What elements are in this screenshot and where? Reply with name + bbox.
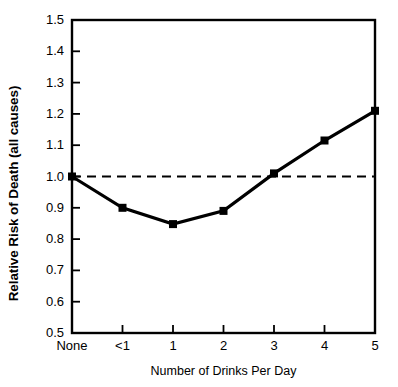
y-tick-label-0-9: 0.9 <box>4 201 64 214</box>
y-tick-label-1-2: 1.2 <box>4 107 64 120</box>
y-tick-label-0-6: 0.6 <box>4 295 64 308</box>
data-point-4 <box>321 137 329 145</box>
y-tick-label-0-8: 0.8 <box>4 232 64 245</box>
y-tick-label-0-7: 0.7 <box>4 263 64 276</box>
data-point-5 <box>371 107 379 115</box>
y-tick-label-1-1: 1.1 <box>4 138 64 151</box>
chart-figure: Relative Risk of Death (all causes) <box>0 0 398 387</box>
y-tick-label-1-3: 1.3 <box>4 76 64 89</box>
y-tick-label-1-4: 1.4 <box>4 44 64 57</box>
data-point-none <box>68 173 76 181</box>
data-point-2 <box>220 207 228 215</box>
data-point-1 <box>169 220 177 228</box>
x-tick-label-5: 5 <box>340 339 398 353</box>
y-tick-label-0-5: 0.5 <box>4 326 64 339</box>
y-tick-label-1-0: 1.0 <box>4 170 64 183</box>
data-point-3 <box>270 169 278 177</box>
data-point-lt1 <box>119 204 127 212</box>
x-axis-title: Number of Drinks Per Day <box>72 364 375 378</box>
y-tick-label-1-5: 1.5 <box>4 13 64 26</box>
